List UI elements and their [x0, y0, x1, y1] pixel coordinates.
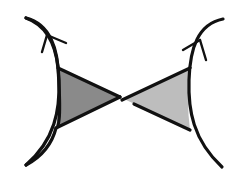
right-wedge [122, 68, 190, 130]
right-curve [183, 19, 223, 167]
bowtie-diagram [0, 0, 246, 175]
diagram-canvas [0, 0, 246, 175]
left-curve [26, 18, 66, 165]
left-wedge [56, 68, 120, 128]
